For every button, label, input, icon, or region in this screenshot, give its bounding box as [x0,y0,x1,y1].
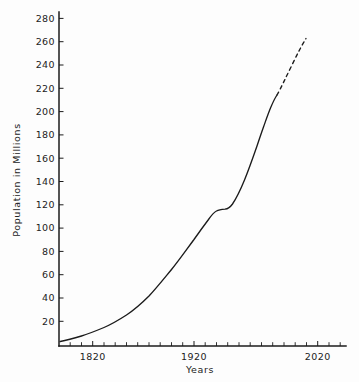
y-tick-label-120: 120 [36,199,55,210]
y-tick-label-60: 60 [42,269,55,280]
population-curve-dashed [277,39,306,96]
y-tick-label-100: 100 [36,222,55,233]
y-tick-label-220: 220 [36,83,55,94]
y-tick-label-180: 180 [36,129,55,140]
x-tick-label-1820: 1820 [80,351,106,362]
y-tick-label-80: 80 [42,246,55,257]
chart-canvas: 20 40 60 80 100 120 140 160 180 200 220 … [0,0,359,382]
y-tick-label-280: 280 [36,13,55,24]
x-tick-label-2020: 2020 [305,351,331,362]
y-tick-label-20: 20 [42,316,55,327]
y-tick-label-140: 140 [36,176,55,187]
y-tick-label-200: 200 [36,106,55,117]
x-axis-title: Years [185,364,214,375]
y-tick-label-240: 240 [36,59,55,70]
x-tick-label-1920: 1920 [181,351,207,362]
y-tick-label-160: 160 [36,153,55,164]
y-tick-label-40: 40 [42,292,55,303]
population-curve-solid [60,95,277,342]
population-growth-chart: 20 40 60 80 100 120 140 160 180 200 220 … [0,0,359,382]
y-tick-label-260: 260 [36,36,55,47]
y-axis-title: Population in Millions [11,123,22,236]
